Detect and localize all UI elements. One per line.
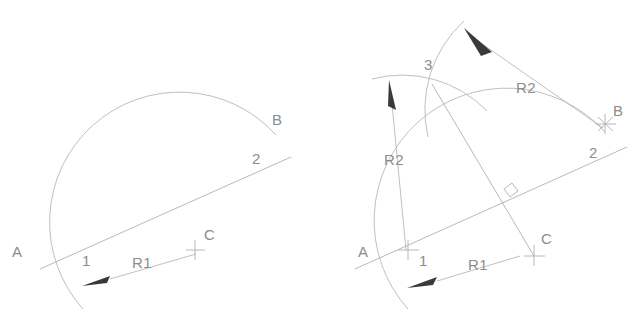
technical-drawing-svg: A B C 1 2 R1 xyxy=(0,0,644,324)
label-point-b: B xyxy=(272,111,283,128)
label-radius-1: R1 xyxy=(468,256,488,273)
label-point-c: C xyxy=(204,226,215,243)
label-point-1: 1 xyxy=(82,252,91,269)
label-point-1: 1 xyxy=(419,252,428,269)
label-radius-1: R1 xyxy=(132,254,152,271)
label-point-a: A xyxy=(358,243,369,260)
label-point-2: 2 xyxy=(252,150,261,167)
label-point-2: 2 xyxy=(589,144,598,161)
label-point-a: A xyxy=(12,243,23,260)
label-radius-2-left: R2 xyxy=(384,151,404,168)
label-point-3: 3 xyxy=(424,56,433,73)
label-point-c: C xyxy=(541,230,552,247)
background xyxy=(0,0,644,324)
label-point-b: B xyxy=(613,102,624,119)
drawing-canvas: A B C 1 2 R1 xyxy=(0,0,644,324)
label-radius-2-right: R2 xyxy=(516,79,536,96)
